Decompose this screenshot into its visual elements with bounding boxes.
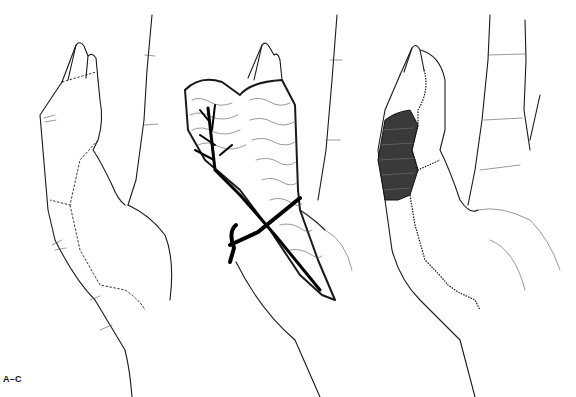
panel-b (185, 15, 352, 397)
figure-label: A–C (3, 374, 22, 384)
surgical-illustration: A–C (0, 0, 576, 397)
panel-c (378, 15, 560, 397)
panel-a (40, 15, 172, 397)
illustration-line-art (0, 0, 576, 397)
